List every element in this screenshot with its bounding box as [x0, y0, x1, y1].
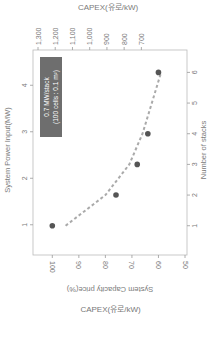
top-tick-label: 700	[138, 33, 145, 45]
top-axis: 1,3001,2001,1001,000900800700	[35, 27, 145, 50]
data-point	[156, 70, 162, 76]
chart: 1,3001,2001,1001,000900800700 1009080706…	[0, 0, 221, 300]
bottom-tick-label: 80	[102, 261, 109, 269]
left-axis: 1234	[21, 83, 33, 227]
bottom-axis-label: System Capacity price(%)	[66, 285, 153, 294]
bottom-axis: 1009080706050	[49, 255, 189, 273]
bottom-tick-label: 70	[128, 261, 135, 269]
right-tick-label: 2	[191, 193, 198, 197]
annotation-line2: (100 cells : 0.1 m²)	[52, 70, 60, 124]
data-point	[134, 162, 140, 168]
right-tick-label: 5	[191, 101, 198, 105]
right-axis: 123456	[187, 70, 198, 227]
right-tick-label: 3	[191, 162, 198, 166]
data-points	[50, 70, 162, 229]
right-tick-label: 1	[191, 224, 198, 228]
right-tick-label: 4	[191, 132, 198, 136]
data-point	[113, 192, 119, 198]
left-tick-label: 4	[21, 83, 28, 87]
left-axis-label: System Power Input(MW)	[3, 107, 12, 193]
top-tick-label: 1,100	[69, 27, 76, 45]
left-tick-label: 2	[21, 176, 28, 180]
top-tick-label: 1,300	[35, 27, 42, 45]
top-tick-label: 1,200	[52, 27, 59, 45]
right-axis-label: Number of stacks	[199, 121, 208, 180]
left-tick-label: 1	[21, 223, 28, 227]
caption: CAPEX(유로/kW)	[0, 303, 221, 314]
top-axis-label: CAPEX(유로/kW)	[78, 3, 139, 12]
data-point	[145, 131, 151, 137]
top-tick-label: 1,000	[86, 27, 93, 45]
bottom-tick-label: 100	[49, 261, 56, 273]
top-tick-label: 900	[103, 33, 110, 45]
trend-line	[66, 72, 162, 225]
annotation-line1: 0.7 MW/stack	[43, 77, 50, 117]
data-point	[50, 223, 56, 229]
right-tick-label: 6	[191, 70, 198, 74]
bottom-tick-label: 60	[155, 261, 162, 269]
top-tick-label: 800	[121, 33, 128, 45]
annotation-box: 0.7 MW/stack (100 cells : 0.1 m²)	[40, 57, 62, 137]
bottom-tick-label: 90	[75, 261, 82, 269]
bottom-tick-label: 50	[182, 261, 189, 269]
left-tick-label: 3	[21, 130, 28, 134]
